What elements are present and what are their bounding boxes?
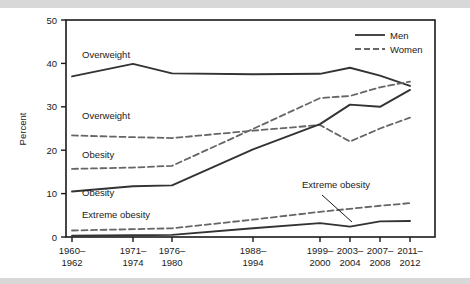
series-line-women-obesity — [72, 82, 410, 169]
x-axis-tick-labels: 1960–19621971–19741976–19801988–19941999… — [59, 245, 424, 268]
x-tick-label-1-start: 1971– — [120, 245, 147, 256]
bottom-border-band — [0, 278, 470, 284]
top-border-band — [0, 0, 470, 8]
annotation-extreme-obesity-left: Extreme obesity — [82, 209, 150, 220]
x-tick-label-5-start: 2003– — [337, 245, 364, 256]
annotation-men-obesity: Obesity — [82, 187, 114, 198]
x-tick-label-0-start: 1960– — [59, 245, 86, 256]
annotation-men-overweight: Overweight — [82, 49, 130, 60]
y-axis-tick-labels: 01020304050 — [46, 15, 57, 243]
x-tick-label-1-end: 1974 — [122, 257, 143, 268]
legend-label-men: Men — [390, 30, 408, 41]
x-tick-label-3-end: 1994 — [242, 257, 263, 268]
y-axis-title: Percent — [17, 112, 28, 145]
x-tick-label-2-end: 1980 — [161, 257, 182, 268]
x-tick-label-6-end: 2008 — [369, 257, 390, 268]
y-tick-label-40: 40 — [46, 58, 57, 69]
x-tick-label-7-end: 2012 — [399, 257, 420, 268]
x-tick-label-2-start: 1976– — [159, 245, 186, 256]
y-tick-label-20: 20 — [46, 145, 57, 156]
annotation-extreme-obesity-callout: Extreme obesity — [302, 179, 370, 190]
chart-figure: 01020304050 Percent 1960–19621971–197419… — [0, 0, 470, 284]
series-line-men-obesity — [72, 90, 410, 192]
series-line-men-extreme-obesity — [72, 221, 410, 236]
x-tick-label-3-start: 1988– — [240, 245, 267, 256]
x-tick-label-4-end: 2000 — [309, 257, 330, 268]
x-tick-label-5-end: 2004 — [339, 257, 360, 268]
x-tick-label-6-start: 2007– — [367, 245, 394, 256]
obesity-trends-line-chart: 01020304050 Percent 1960–19621971–197419… — [0, 0, 470, 284]
y-tick-label-50: 50 — [46, 15, 57, 26]
annotation-women-obesity: Obesity — [82, 149, 114, 160]
annotation-women-overweight: Overweight — [82, 110, 130, 121]
y-tick-label-0: 0 — [52, 232, 57, 243]
x-tick-label-0-end: 1962 — [61, 257, 82, 268]
y-tick-label-30: 30 — [46, 101, 57, 112]
chart-legend: Men Women — [355, 30, 423, 55]
y-tick-label-10: 10 — [46, 188, 57, 199]
series-line-women-overweight — [72, 118, 410, 142]
series-line-men-overweight — [72, 64, 410, 86]
legend-label-women: Women — [390, 44, 423, 55]
x-tick-label-7-start: 2011– — [397, 245, 423, 256]
x-tick-label-4-start: 1999– — [307, 245, 334, 256]
